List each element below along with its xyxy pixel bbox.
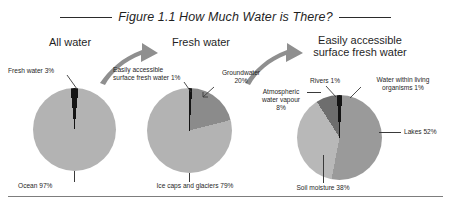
callout-rivers-1pct: Rivers 1% bbox=[302, 77, 348, 85]
panel-heading-fresh-water: Fresh water bbox=[155, 36, 247, 48]
title-rule-right bbox=[339, 17, 391, 18]
callout-ice-caps-79pct: Ice caps and glaciers 79% bbox=[140, 182, 250, 190]
figure-title: Figure 1.1 How Much Water is There? bbox=[118, 10, 332, 24]
leader-line-soil-moisture bbox=[323, 155, 324, 183]
bottom-rule bbox=[8, 196, 443, 197]
leader-line-groundwater-icon bbox=[200, 86, 216, 100]
panel-heading-easily-accessible: Easily accessible surface fresh water bbox=[290, 34, 430, 58]
callout-groundwater-20pct: Groundwater 20% bbox=[212, 69, 270, 85]
callout-soil-moisture-38pct: Soil moisture 38% bbox=[282, 184, 364, 192]
callout-lakes-52pct: Lakes 52% bbox=[404, 128, 448, 136]
pie-chart-fresh-water bbox=[147, 88, 232, 173]
figure-title-bar: Figure 1.1 How Much Water is There? bbox=[0, 8, 451, 26]
pie-chart-all-water bbox=[33, 88, 116, 171]
leader-line-ocean bbox=[74, 171, 75, 182]
leader-line-lakes bbox=[379, 132, 401, 133]
callout-atmospheric-vapour-8pct: Atmospheric water vapour 8% bbox=[252, 88, 310, 113]
title-rule-left bbox=[60, 17, 112, 18]
callout-fresh-water-3pct: Fresh water 3% bbox=[8, 67, 70, 75]
leader-line-ice-caps bbox=[189, 173, 190, 182]
leader-line-fresh-water-icon bbox=[66, 73, 80, 91]
figure-container: Figure 1.1 How Much Water is There? All … bbox=[0, 0, 451, 201]
leader-line-rivers-icon bbox=[325, 85, 339, 99]
leader-line-atmospheric bbox=[307, 92, 321, 93]
callout-living-organisms-1pct: Water within living organisms 1% bbox=[360, 76, 446, 92]
callout-ocean-97pct: Ocean 97% bbox=[18, 182, 80, 190]
leader-line-living-organisms-icon bbox=[347, 86, 363, 100]
leader-line-easily-accessible-icon bbox=[183, 80, 195, 94]
